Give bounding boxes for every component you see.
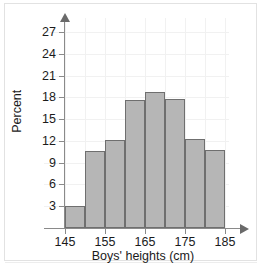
y-tick-mark (59, 32, 65, 33)
y-tick-label: 6 (28, 178, 56, 191)
histogram-bar (65, 206, 85, 228)
x-tick-mark (65, 228, 66, 234)
x-axis-label: Boys' heights (cm) (45, 250, 241, 263)
y-tick-label: 27 (28, 26, 56, 39)
y-tick-mark (59, 163, 65, 164)
x-tick-label: 185 (205, 236, 245, 249)
histogram-bar (185, 139, 205, 228)
y-axis-label: Percent (11, 76, 24, 146)
x-axis-line (44, 228, 240, 229)
y-tick-label: 24 (28, 48, 56, 61)
plot-area (65, 32, 225, 228)
x-tick-mark (145, 228, 146, 234)
y-tick-label: 21 (28, 70, 56, 83)
x-tick-mark (105, 228, 106, 234)
gridline-horizontal (44, 76, 229, 77)
x-axis-arrow-icon (240, 224, 249, 234)
y-axis-line (64, 20, 65, 229)
y-tick-mark (59, 76, 65, 77)
y-tick-label: 3 (28, 200, 56, 213)
gridline-horizontal (44, 54, 229, 55)
x-tick-label: 145 (45, 236, 85, 249)
y-tick-mark (59, 119, 65, 120)
y-axis-ticks: 369121518212427 (0, 0, 56, 269)
histogram-bar (205, 150, 225, 228)
y-tick-label: 18 (28, 91, 56, 104)
x-tick-label: 175 (165, 236, 205, 249)
y-tick-mark (59, 141, 65, 142)
y-tick-mark (59, 97, 65, 98)
gridline-vertical (225, 18, 226, 228)
gridline-horizontal (44, 97, 229, 98)
histogram-bar (165, 99, 185, 228)
y-axis-arrow-icon (60, 13, 70, 22)
histogram-figure: 369121518212427 145155165175185 Percent … (0, 0, 262, 269)
histogram-bar (105, 140, 125, 228)
x-tick-mark (185, 228, 186, 234)
histogram-bar (145, 92, 165, 228)
histogram-bar (125, 100, 145, 228)
y-tick-label: 9 (28, 157, 56, 170)
y-tick-mark (59, 206, 65, 207)
y-tick-label: 12 (28, 135, 56, 148)
gridline-vertical (65, 18, 66, 228)
y-tick-mark (59, 54, 65, 55)
x-tick-mark (225, 228, 226, 234)
gridline-horizontal (44, 32, 229, 33)
y-tick-label: 15 (28, 113, 56, 126)
y-tick-mark (59, 184, 65, 185)
x-tick-label: 155 (85, 236, 125, 249)
x-tick-label: 165 (125, 236, 165, 249)
histogram-bar (85, 151, 105, 228)
